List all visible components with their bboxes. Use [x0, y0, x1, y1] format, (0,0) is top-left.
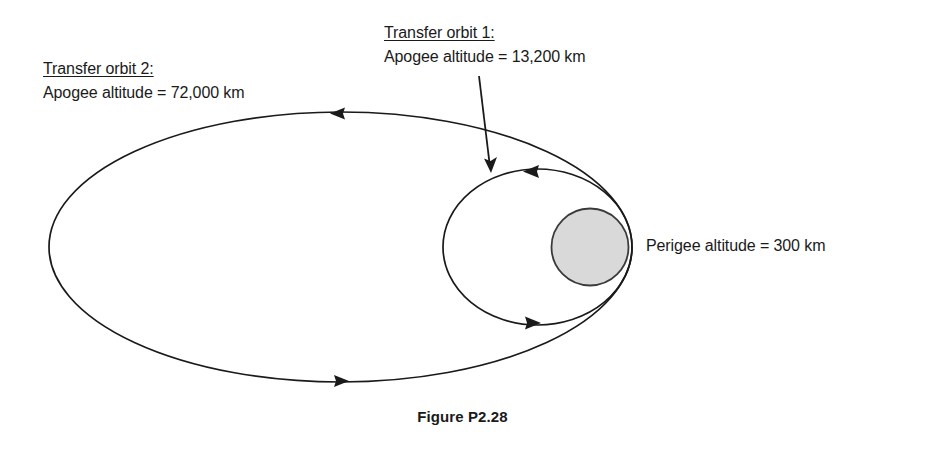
outer-orbit-bottom-arrow-icon [334, 375, 349, 387]
outer-orbit-top-arrow-icon [330, 108, 345, 120]
transfer-orbit-2-title: Transfer orbit 2: [43, 57, 154, 81]
transfer-orbit-1-detail: Apogee altitude = 13,200 km [384, 45, 585, 69]
transfer-orbit-2-title-line: Transfer orbit 2: [43, 57, 244, 81]
transfer-orbit-1-title-line: Transfer orbit 1: [384, 21, 585, 45]
perigee-altitude-label: Perigee altitude = 300 km [646, 236, 825, 256]
orbital-transfer-figure: Transfer orbit 2: Apogee altitude = 72,0… [0, 0, 925, 450]
transfer-orbit-1-leader-line [479, 76, 490, 163]
transfer-orbit-1-label: Transfer orbit 1: Apogee altitude = 13,2… [384, 21, 585, 69]
transfer-orbit-1-title: Transfer orbit 1: [384, 21, 495, 45]
transfer-orbit-2-label: Transfer orbit 2: Apogee altitude = 72,0… [43, 57, 244, 105]
transfer-orbit-2-detail: Apogee altitude = 72,000 km [43, 81, 244, 105]
figure-caption: Figure P2.28 [0, 408, 925, 425]
inner-orbit-bottom-arrow-icon [525, 317, 541, 330]
outer-transfer-orbit-ellipse [49, 112, 632, 382]
transfer-orbit-1-leader-arrow-icon [484, 157, 497, 173]
inner-orbit-top-arrow-icon [523, 165, 539, 178]
earth-body [552, 209, 629, 286]
